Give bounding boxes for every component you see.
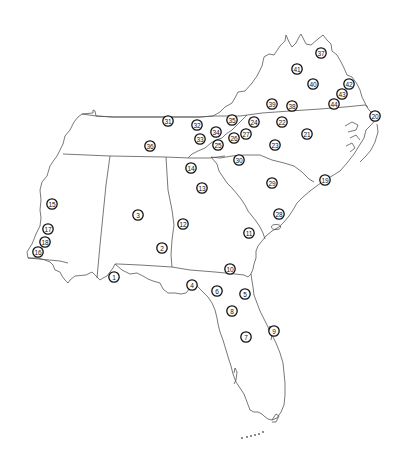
site-marker-3[interactable]: 3 [133,210,143,220]
site-marker-28[interactable]: 28 [274,209,284,219]
marker-label: 40 [309,81,317,88]
site-marker-12[interactable]: 12 [178,219,188,229]
marker-label: 30 [235,157,243,164]
marker-label: 7 [244,334,248,341]
marker-label: 29 [268,180,276,187]
site-marker-26[interactable]: 26 [229,133,239,143]
key-dot [262,431,264,433]
marker-label: 23 [271,142,279,149]
site-marker-32[interactable]: 32 [192,120,202,130]
marker-label: 22 [278,119,286,126]
marker-label: 14 [187,165,195,172]
site-marker-14[interactable]: 14 [186,163,196,173]
site-marker-1[interactable]: 1 [109,272,119,282]
florida-keys [241,431,264,439]
site-marker-38[interactable]: 38 [287,101,297,111]
site-marker-8[interactable]: 8 [227,306,237,316]
site-marker-6[interactable]: 6 [212,286,222,296]
site-marker-9[interactable]: 9 [269,326,279,336]
nc-sc-border [211,155,314,182]
site-marker-16[interactable]: 16 [33,247,43,257]
marker-label: 10 [226,266,234,273]
marker-label: 15 [48,201,56,208]
marker-label: 43 [338,91,346,98]
marker-label: 31 [164,118,172,125]
marker-label: 42 [345,81,353,88]
tn-south-border [63,154,225,158]
site-marker-10[interactable]: 10 [225,264,235,274]
marker-label: 33 [196,136,204,143]
site-marker-24[interactable]: 24 [249,117,259,127]
site-marker-41[interactable]: 41 [292,64,302,74]
site-marker-31[interactable]: 31 [163,116,173,126]
marker-label: 37 [317,50,325,57]
marker-label: 32 [193,122,201,129]
site-marker-36[interactable]: 36 [145,141,155,151]
site-marker-33[interactable]: 33 [195,134,205,144]
site-marker-22[interactable]: 22 [277,117,287,127]
site-marker-20[interactable]: 20 [370,111,380,121]
marker-label: 1 [112,274,116,281]
marker-label: 5 [243,291,247,298]
key-dot [254,434,256,436]
site-marker-21[interactable]: 21 [302,129,312,139]
key-dot [246,436,248,438]
site-marker-2[interactable]: 2 [157,243,167,253]
site-marker-35[interactable]: 35 [227,115,237,125]
marker-label: 21 [303,131,311,138]
site-marker-29[interactable]: 29 [267,178,277,188]
site-marker-18[interactable]: 18 [40,237,50,247]
marker-label: 4 [190,282,194,289]
marker-label: 19 [321,177,329,184]
ms-south-border [28,258,68,263]
marker-label: 16 [34,249,42,256]
marker-label: 20 [371,113,379,120]
marker-label: 41 [293,66,301,73]
site-marker-40[interactable]: 40 [308,79,318,89]
key-dot [250,435,252,437]
marker-label: 6 [215,288,219,295]
ms-al-border [97,156,110,278]
site-marker-4[interactable]: 4 [187,280,197,290]
southeast-us-map: 1234567891011121314151617181920212223242… [0,0,404,469]
site-marker-39[interactable]: 39 [267,99,277,109]
marker-label: 9 [272,328,276,335]
fl-keys-island [272,414,279,422]
marker-label: 38 [288,103,296,110]
marker-label: 26 [230,135,238,142]
site-marker-37[interactable]: 37 [316,48,326,58]
site-marker-11[interactable]: 11 [244,228,254,238]
marker-label: 12 [179,221,187,228]
site-marker-19[interactable]: 19 [320,175,330,185]
state-borders [27,34,378,422]
site-marker-34[interactable]: 34 [211,127,221,137]
site-marker-5[interactable]: 5 [240,289,250,299]
marker-label: 34 [212,129,220,136]
marker-label: 17 [44,226,52,233]
marker-label: 36 [146,143,154,150]
site-marker-43[interactable]: 43 [337,89,347,99]
nc-outer-banks [360,124,378,162]
marker-label: 2 [160,245,164,252]
sc-ga-border [211,157,265,239]
site-marker-44[interactable]: 44 [329,99,339,109]
site-marker-30[interactable]: 30 [234,155,244,165]
marker-label: 13 [198,185,206,192]
marker-label: 27 [242,131,250,138]
site-marker-7[interactable]: 7 [241,332,251,342]
site-marker-23[interactable]: 23 [270,140,280,150]
marker-label: 11 [246,230,253,237]
marker-label: 35 [228,117,236,124]
marker-label: 8 [230,308,234,315]
marker-label: 18 [41,239,49,246]
site-marker-17[interactable]: 17 [43,224,53,234]
site-marker-42[interactable]: 42 [344,79,354,89]
site-marker-27[interactable]: 27 [241,129,251,139]
site-marker-25[interactable]: 25 [213,140,223,150]
site-marker-15[interactable]: 15 [47,199,57,209]
key-dot [241,437,243,439]
site-marker-13[interactable]: 13 [197,183,207,193]
marker-label: 25 [214,142,222,149]
marker-label: 44 [330,101,338,108]
site-markers: 1234567891011121314151617181920212223242… [33,48,380,342]
